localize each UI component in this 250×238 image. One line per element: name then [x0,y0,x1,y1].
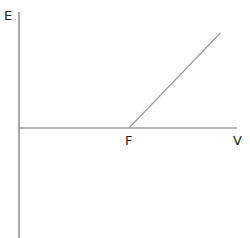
series-line-0 [129,33,220,128]
x-tick-label-0: F [125,133,132,148]
series-layer [129,33,220,128]
diagram-canvas: E V F [0,0,250,238]
tick-labels: F [125,133,132,148]
y-axis-label: E [4,8,12,23]
x-axis-label: V [233,133,242,148]
